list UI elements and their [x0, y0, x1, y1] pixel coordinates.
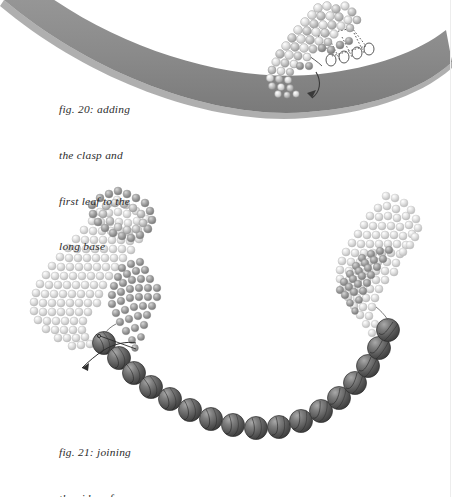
caption-line: fig. 21: joining [59, 445, 131, 460]
caption-line: long base [59, 239, 130, 254]
caption-line: first leaf to the [59, 194, 130, 209]
book-page: fig. 20: adding the clasp and first leaf… [0, 0, 468, 497]
fig21-right-join-detail [376, 307, 388, 320]
figure-20-caption: fig. 20: adding the clasp and first leaf… [59, 72, 130, 285]
caption-line: fig. 20: adding [59, 102, 130, 117]
caption-line: the clasp and [59, 148, 130, 163]
page-margin-rule [450, 0, 451, 497]
caption-line: the sides of [59, 491, 131, 497]
figure-21-caption: fig. 21: joining the sides of the neckla… [59, 415, 131, 497]
